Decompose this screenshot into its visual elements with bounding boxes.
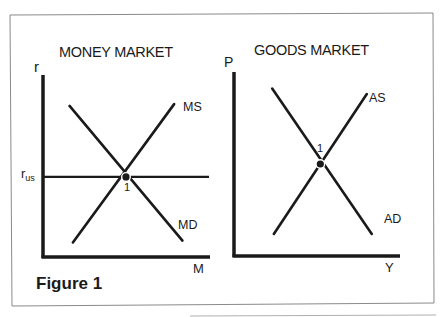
money-x-axis-label: M [193, 262, 204, 275]
goods-market-title: GOODS MARKET [254, 43, 369, 58]
goods-y-axis-label: P [224, 55, 233, 69]
goods-equilibrium-label: 1 [317, 143, 323, 154]
r-us-subscript: us [25, 173, 35, 183]
ms-curve-label: MS [183, 101, 202, 114]
money-market-title: MONEY MARKET [59, 45, 173, 60]
frame-left [10, 15, 12, 306]
r-us-label: rus [21, 167, 35, 180]
ad-curve-label: AD [384, 213, 401, 226]
next-frame-top [190, 315, 436, 316]
as-curve-label: AS [369, 92, 386, 105]
frame-top [10, 13, 433, 15]
frame-bottom [12, 303, 434, 306]
md-curve-label: MD [178, 219, 197, 232]
money-y-axis-label: r [34, 59, 39, 74]
money-equilibrium-label: 1 [124, 182, 130, 193]
goods-x-axis-label: Y [385, 261, 394, 274]
money-equilibrium-point [122, 173, 129, 180]
figure-caption: Figure 1 [36, 275, 102, 292]
frame-right [433, 13, 434, 303]
goods-equilibrium-point [317, 160, 324, 167]
